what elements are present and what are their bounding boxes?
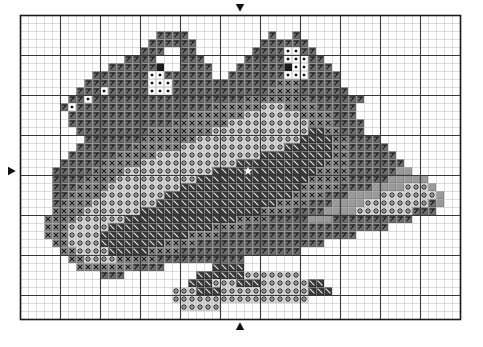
cross-stitch-chart-app: [0, 0, 483, 347]
cross-stitch-grid-canvas[interactable]: [0, 0, 483, 347]
